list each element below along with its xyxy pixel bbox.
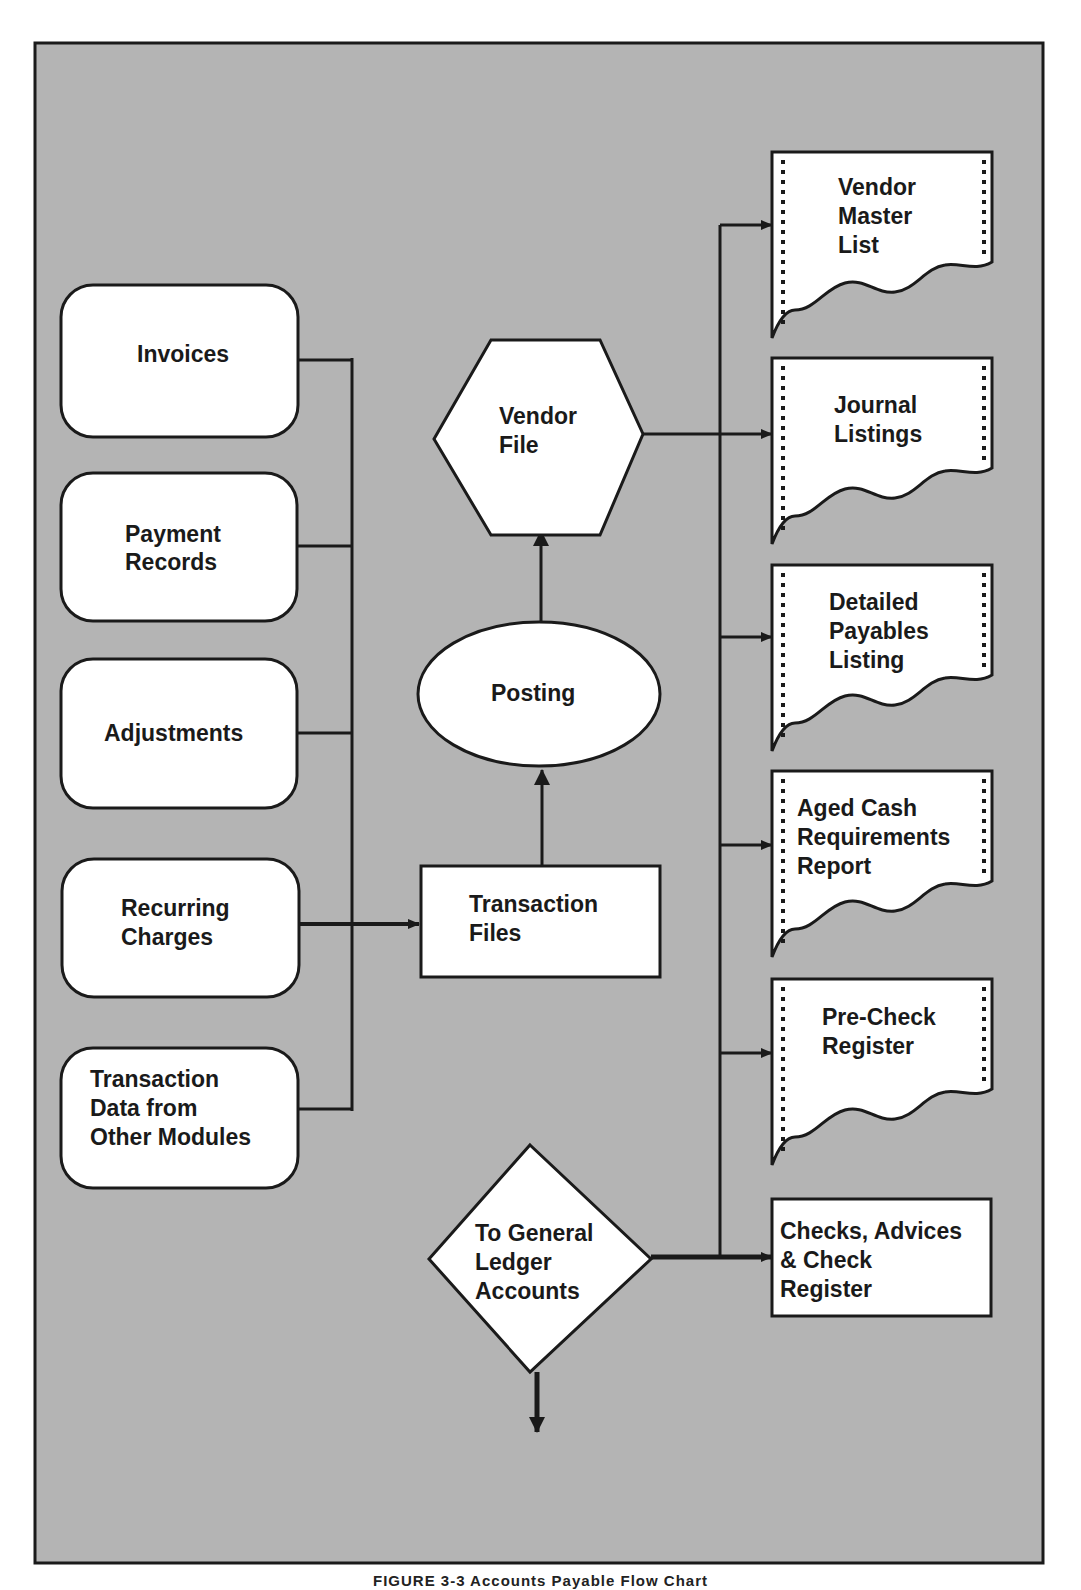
svg-text:Detailed: Detailed [829,589,918,615]
input-label: Adjustments [104,720,243,746]
svg-text:Checks, Advices: Checks, Advices [780,1218,962,1244]
input-label: Invoices [137,341,229,367]
input-label: Transaction [90,1066,219,1092]
svg-text:Register: Register [822,1033,914,1059]
svg-text:Accounts: Accounts [475,1278,580,1304]
output-label: Master [838,203,912,229]
svg-text:Aged Cash: Aged Cash [797,795,917,821]
svg-text:Requirements: Requirements [797,824,950,850]
output-label: Aged Cash [797,795,917,821]
output-label: Vendor [838,174,916,200]
input-transaction-data: Transaction Data from Other Modules [61,1048,298,1188]
svg-text:Register: Register [780,1276,872,1302]
output-label: Requirements [797,824,950,850]
output-checks-advices-check-register: Checks, Advices & Check Register [772,1199,991,1316]
node-label: File [499,432,539,458]
svg-text:Other Modules: Other Modules [90,1124,251,1150]
svg-text:Posting: Posting [491,680,575,706]
svg-text:Adjustments: Adjustments [104,720,243,746]
output-label: Pre-Check [822,1004,936,1030]
posting-ellipse: Posting [418,622,660,766]
svg-text:Listing: Listing [829,647,904,673]
svg-text:Vendor: Vendor [838,174,916,200]
transaction-files-box: Transaction Files [421,866,660,977]
input-label: Data from [90,1095,197,1121]
node-label: Files [469,920,521,946]
output-label: Register [780,1276,872,1302]
output-label: Detailed [829,589,918,615]
input-label: Records [125,549,217,575]
node-label: Ledger [475,1249,552,1275]
output-label: Checks, Advices [780,1218,962,1244]
svg-text:Vendor: Vendor [499,403,577,429]
svg-text:Files: Files [469,920,521,946]
svg-text:Transaction: Transaction [90,1066,219,1092]
output-label: List [838,232,879,258]
input-invoices: Invoices [61,285,298,437]
node-label: To General [475,1220,593,1246]
output-label: Listings [834,421,922,447]
input-adjustments: Adjustments [61,659,297,808]
svg-text:Journal: Journal [834,392,917,418]
input-label: Charges [121,924,213,950]
svg-text:& Check: & Check [780,1247,872,1273]
output-label: & Check [780,1247,872,1273]
input-payment-records: Payment Records [61,473,297,621]
svg-text:Report: Report [797,853,871,879]
svg-text:Invoices: Invoices [137,341,229,367]
svg-text:Charges: Charges [121,924,213,950]
svg-text:File: File [499,432,539,458]
svg-text:Transaction: Transaction [469,891,598,917]
output-label: Report [797,853,871,879]
output-label: Journal [834,392,917,418]
node-label: Posting [491,680,575,706]
output-label: Listing [829,647,904,673]
output-label: Register [822,1033,914,1059]
svg-text:Master: Master [838,203,912,229]
svg-text:Payables: Payables [829,618,929,644]
svg-text:To General: To General [475,1220,593,1246]
svg-text:List: List [838,232,879,258]
input-recurring-charges: Recurring Charges [62,859,299,997]
svg-text:Listings: Listings [834,421,922,447]
figure-caption: FIGURE 3-3 Accounts Payable Flow Chart [0,1572,1081,1590]
node-label: Vendor [499,403,577,429]
svg-text:Pre-Check: Pre-Check [822,1004,936,1030]
svg-text:Ledger: Ledger [475,1249,552,1275]
svg-text:Data from: Data from [90,1095,197,1121]
node-label: Transaction [469,891,598,917]
svg-text:Recurring: Recurring [121,895,230,921]
svg-text:Records: Records [125,549,217,575]
accounts-payable-flowchart: Invoices Payment Records Adjustments Rec… [0,0,1081,1590]
input-label: Payment [125,521,221,547]
input-label: Recurring [121,895,230,921]
svg-text:Payment: Payment [125,521,221,547]
input-label: Other Modules [90,1124,251,1150]
output-label: Payables [829,618,929,644]
node-label: Accounts [475,1278,580,1304]
